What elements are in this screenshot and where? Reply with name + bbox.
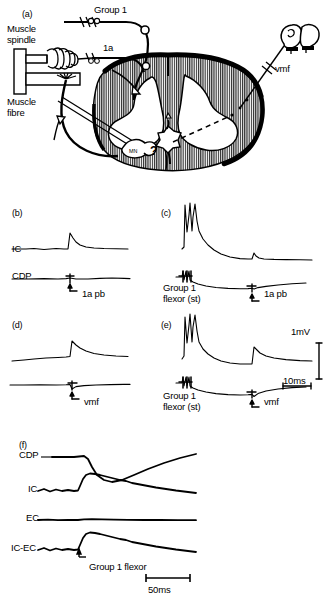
scale-label-time-e: 10ms xyxy=(283,376,305,387)
trace-label-f-cdp: CDP xyxy=(19,450,38,461)
brain-icon xyxy=(281,25,319,54)
stim-label-e-test: vmf xyxy=(264,397,279,408)
figure-container: MN ? (a) Group 1 Muscle spindle 1a Muscl… xyxy=(0,0,326,604)
trace-d-ic xyxy=(12,341,128,361)
spinal-cord-section xyxy=(93,55,262,171)
panel-b-label: (b) xyxy=(12,208,22,219)
trace-c-ic xyxy=(182,203,312,260)
muscle-spindle-label: Muscle spindle xyxy=(7,24,36,45)
trace-label-f-ec: EC xyxy=(26,513,39,524)
trace-d-cdp xyxy=(10,384,130,389)
ia-synapse-bouton xyxy=(142,62,149,69)
trace-f-cdp xyxy=(52,454,196,482)
trace-label-f-icec: IC-EC xyxy=(11,543,36,554)
scale-bar-time-f xyxy=(146,574,190,582)
d-arrow xyxy=(70,392,74,399)
trace-e-ic xyxy=(182,314,312,364)
stim-marker-b xyxy=(66,274,77,291)
panel-c-label: (c) xyxy=(161,208,171,219)
scale-label-time-f: 50ms xyxy=(148,585,170,596)
panel-a-diagram: MN ? xyxy=(0,0,326,195)
stim-marker-c xyxy=(247,284,259,301)
trace-label-b-ic: IC xyxy=(12,244,21,255)
stim-label-e-cond: Group 1 flexor (st) xyxy=(163,391,200,412)
panel-d-label: (d) xyxy=(12,320,22,331)
trace-f-ec xyxy=(38,519,196,520)
spindle-stalk xyxy=(26,55,47,63)
stim-label-c-test: 1a pb xyxy=(264,289,287,300)
motoneuron-label: MN xyxy=(129,148,137,154)
stim-label-f: Group 1 flexor xyxy=(89,562,146,573)
stim-label-d: vmf xyxy=(84,397,99,408)
scale-label-voltage-e: 1mV xyxy=(291,327,310,338)
tendon-block xyxy=(14,49,26,94)
stim-marker-e xyxy=(247,390,259,407)
trace-label-b-cdp: CDP xyxy=(12,271,31,282)
stim-label-c-cond: Group 1 flexor (st) xyxy=(163,283,200,304)
trace-f-icec xyxy=(38,533,196,553)
panel-a-label: (a) xyxy=(22,9,32,20)
panel-f-traces xyxy=(0,424,326,604)
vmf-label-a: vmf xyxy=(275,64,290,75)
group1-label: Group 1 xyxy=(94,5,127,16)
group1-synapse-bouton xyxy=(141,26,149,34)
muscle-spindle-icon xyxy=(47,48,92,69)
unknown-pathway-question-mark: ? xyxy=(150,144,157,158)
stim-marker-d xyxy=(68,381,79,399)
ia-afferent-label: 1a xyxy=(103,43,113,54)
panel-e-label: (e) xyxy=(161,320,171,331)
stim-marker-f xyxy=(77,549,86,557)
trace-f-ic xyxy=(38,474,196,494)
trace-label-f-ic: IC xyxy=(28,484,37,495)
scale-bar-voltage-e xyxy=(316,343,322,379)
muscle-fibre-label: Muscle fibre xyxy=(7,97,36,118)
trace-b-ic xyxy=(12,233,128,250)
stim-label-b: 1a pb xyxy=(82,289,105,300)
muscle-fibre-schematic xyxy=(14,48,92,94)
